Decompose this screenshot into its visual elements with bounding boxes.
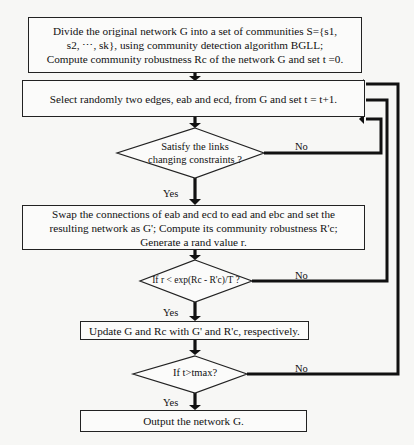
swap-line-2: resulting network as G'; Compute its com… — [49, 221, 337, 235]
output-text: Output the network G. — [143, 414, 244, 428]
decision-diamonds — [117, 128, 264, 393]
constraints-line-1: Satisfy the links — [130, 141, 260, 154]
constraints-decision-label: Satisfy the links changing constraints ? — [130, 141, 260, 166]
start-box-line-2: s2, ⋯, sk}, using community detection al… — [67, 38, 323, 52]
swap-line-3: Generate a rand value r. — [140, 235, 247, 249]
start-box-line-1: Divide the original network G into a set… — [53, 24, 337, 38]
tmax-no-label: No — [295, 363, 308, 374]
start-box: Divide the original network G into a set… — [28, 17, 362, 73]
accept-yes-label: Yes — [163, 307, 178, 318]
start-box-line-3: Compute community robustness Rc of the n… — [47, 52, 344, 66]
constraints-yes-label: Yes — [163, 188, 178, 199]
swap-box: Swap the connections of eab and ecd to e… — [22, 205, 365, 250]
constraints-no-label: No — [295, 141, 308, 152]
update-text: Update G and Rc with G' and R'c, respect… — [89, 324, 300, 338]
swap-line-1: Swap the connections of eab and ecd to e… — [52, 207, 335, 221]
tmax-yes-label: Yes — [163, 397, 178, 408]
select-edges-text: Select randomly two edges, eab and ecd, … — [50, 92, 337, 106]
constraints-line-2: changing constraints ? — [130, 154, 260, 167]
output-box: Output the network G. — [80, 410, 307, 432]
tmax-decision-label: If t>tmax? — [150, 367, 240, 380]
accept-no-label: No — [295, 270, 308, 281]
update-box: Update G and Rc with G' and R'c, respect… — [80, 321, 309, 340]
accept-decision-label: If r < exp(Rc - R'c)/T ? — [140, 274, 252, 287]
select-edges-box: Select randomly two edges, eab and ecd, … — [22, 80, 365, 117]
